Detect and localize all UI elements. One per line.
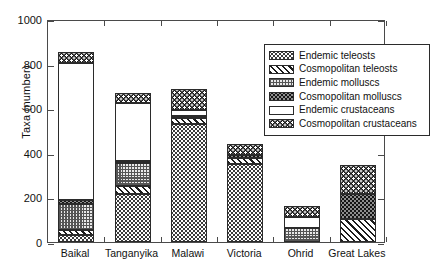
legend-swatch-cosmopolitan-crustaceans: [269, 119, 294, 128]
bar-segment-great-lakes-cosmopolitan-crustaceans: [340, 165, 376, 194]
y-tick-label-600: 600: [0, 103, 42, 115]
bar-ohrid: [284, 206, 320, 242]
legend-item-cosmopolitan-molluscs: Cosmopolitan molluscs: [269, 90, 424, 104]
y-tick-600: [48, 110, 54, 111]
plot-area: Endemic teleostsCosmopolitan teleostsEnd…: [47, 20, 385, 243]
bar-segment-tanganyika-cosmopolitan-molluscs: [115, 161, 151, 163]
y-tick-400: [48, 155, 54, 156]
y-tick-right-1000: [378, 21, 384, 22]
bar-segment-tanganyika-endemic-teleosts: [115, 194, 151, 242]
bar-segment-tanganyika-cosmopolitan-teleosts: [115, 186, 151, 194]
bar-segment-ohrid-endemic-molluscs: [284, 228, 320, 242]
legend-label: Endemic crustaceans: [299, 105, 395, 115]
y-tick-800: [48, 66, 54, 67]
legend-label: Cosmopolitan teleosts: [299, 64, 397, 74]
bar-segment-ohrid-endemic-crustaceans: [284, 217, 320, 227]
bar-segment-baikal-endemic-crustaceans: [58, 63, 94, 200]
legend-item-cosmopolitan-crustaceans: Cosmopolitan crustaceans: [269, 117, 424, 131]
bar-segment-malawi-cosmopolitan-molluscs: [171, 116, 207, 118]
legend-label: Endemic molluscs: [299, 78, 380, 88]
x-tick-label-tanganyika: Tanganyika: [105, 247, 158, 259]
x-tick-top-5: [330, 21, 331, 26]
legend-label: Endemic teleosts: [299, 51, 375, 61]
bar-segment-malawi-cosmopolitan-teleosts: [171, 118, 207, 124]
legend-label: Cosmopolitan molluscs: [299, 92, 402, 102]
bar-segment-baikal-cosmopolitan-teleosts: [58, 230, 94, 236]
x-tick-6: [386, 237, 387, 242]
x-tick-2: [161, 237, 162, 242]
bar-segment-victoria-endemic-teleosts: [227, 164, 263, 242]
x-tick-1: [104, 237, 105, 242]
bar-segment-malawi-cosmopolitan-crustaceans: [171, 89, 207, 110]
y-tick-right-0: [378, 244, 384, 245]
y-tick-right-400: [378, 155, 384, 156]
y-tick-200: [48, 199, 54, 200]
bar-segment-malawi-endemic-teleosts: [171, 124, 207, 242]
bar-segment-tanganyika-cosmopolitan-crustaceans: [115, 93, 151, 103]
legend-item-cosmopolitan-teleosts: Cosmopolitan teleosts: [269, 63, 424, 77]
legend-item-endemic-teleosts: Endemic teleosts: [269, 49, 424, 63]
x-tick-label-great-lakes: Great Lakes: [328, 247, 385, 259]
x-tick-top-6: [386, 21, 387, 26]
x-tick-label-malawi: Malawi: [171, 247, 204, 259]
y-tick-label-0: 0: [0, 237, 42, 249]
bar-segment-great-lakes-cosmopolitan-teleosts: [340, 219, 376, 242]
legend-swatch-endemic-molluscs: [269, 78, 294, 87]
y-tick-label-400: 400: [0, 148, 42, 160]
bar-segment-baikal-endemic-teleosts: [58, 235, 94, 242]
x-tick-5: [330, 237, 331, 242]
x-tick-label-victoria: Victoria: [227, 247, 262, 259]
bar-segment-malawi-endemic-crustaceans: [171, 110, 207, 116]
y-tick-label-800: 800: [0, 59, 42, 71]
legend-item-endemic-crustaceans: Endemic crustaceans: [269, 103, 424, 117]
bar-segment-victoria-cosmopolitan-crustaceans: [227, 144, 263, 155]
bar-tanganyika: [115, 93, 151, 242]
x-tick-4: [273, 237, 274, 242]
bar-segment-baikal-endemic-molluscs: [58, 204, 94, 230]
y-tick-right-200: [378, 199, 384, 200]
x-tick-top-1: [104, 21, 105, 26]
y-tick-label-200: 200: [0, 192, 42, 204]
bar-segment-ohrid-cosmopolitan-crustaceans: [284, 206, 320, 217]
x-tick-top-4: [273, 21, 274, 26]
bar-segment-victoria-cosmopolitan-teleosts: [227, 158, 263, 164]
x-tick-3: [217, 237, 218, 242]
x-tick-top-3: [217, 21, 218, 26]
legend-swatch-cosmopolitan-teleosts: [269, 65, 294, 74]
legend-label: Cosmopolitan crustaceans: [299, 119, 417, 129]
y-tick-label-1000: 1000: [0, 14, 42, 26]
legend-swatch-endemic-teleosts: [269, 51, 294, 60]
bar-segment-great-lakes-cosmopolitan-molluscs: [340, 194, 376, 219]
legend-box: Endemic teleostsCosmopolitan teleostsEnd…: [264, 44, 430, 136]
bar-segment-baikal-cosmopolitan-crustaceans: [58, 52, 94, 62]
legend-item-endemic-molluscs: Endemic molluscs: [269, 76, 424, 90]
legend-swatch-cosmopolitan-molluscs: [269, 92, 294, 101]
x-tick-label-baikal: Baikal: [61, 247, 90, 259]
bar-segment-tanganyika-endemic-crustaceans: [115, 103, 151, 161]
bar-malawi: [171, 89, 207, 242]
bar-victoria: [227, 144, 263, 242]
y-tick-1000: [48, 21, 54, 22]
x-tick-top-2: [161, 21, 162, 26]
x-tick-label-ohrid: Ohrid: [288, 247, 314, 259]
bar-segment-tanganyika-endemic-molluscs: [115, 163, 151, 186]
legend-swatch-endemic-crustaceans: [269, 106, 294, 115]
bar-segment-victoria-cosmopolitan-molluscs: [227, 155, 263, 158]
y-tick-0: [48, 244, 54, 245]
bar-great-lakes: [340, 165, 376, 242]
bar-segment-baikal-cosmopolitan-molluscs: [58, 200, 94, 204]
bar-baikal: [58, 52, 94, 242]
